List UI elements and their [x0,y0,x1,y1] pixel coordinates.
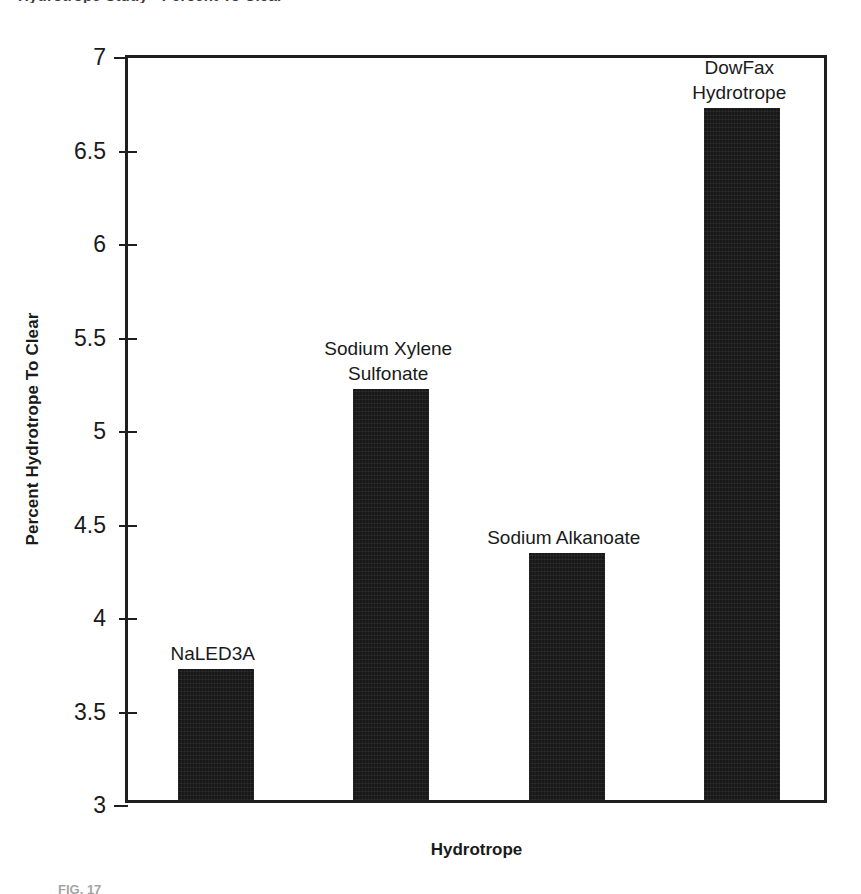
plot-area: 76.565.554.543.53 [125,55,827,803]
y-axis-tick-mark [119,151,137,153]
y-axis-tick-mark [119,431,137,433]
y-axis-tick-mark [114,805,128,807]
y-axis-tick-mark [119,712,137,714]
y-axis-tick-label: 4.5 [16,510,106,540]
y-axis-tick-mark [119,338,137,340]
bar [353,389,429,800]
y-axis-tick-mark [119,618,137,620]
y-axis-tick-label: 4 [16,603,106,633]
x-axis-title: Hydrotrope [125,840,828,860]
y-axis-tick-label: 3.5 [16,697,106,727]
y-axis-tick-label: 5.5 [16,323,106,353]
y-axis-tick-label: 3 [16,790,106,820]
y-axis-tick-mark [119,244,137,246]
cropped-figure-caption: FIG. 17 [58,882,698,894]
y-axis-tick-label: 7 [16,42,106,72]
bar [529,553,605,800]
y-axis-tick-label: 5 [16,416,106,446]
y-axis-tick-label: 6.5 [16,136,106,166]
figure-root: Hydrotrope Study - Percent To Clear Perc… [0,0,861,894]
bar [704,108,780,800]
cropped-figure-title: Hydrotrope Study - Percent To Clear [18,0,488,3]
y-axis-tick-mark [119,525,137,527]
y-axis-tick-mark [114,57,128,59]
bar [178,669,254,800]
y-axis-tick-label: 6 [16,229,106,259]
